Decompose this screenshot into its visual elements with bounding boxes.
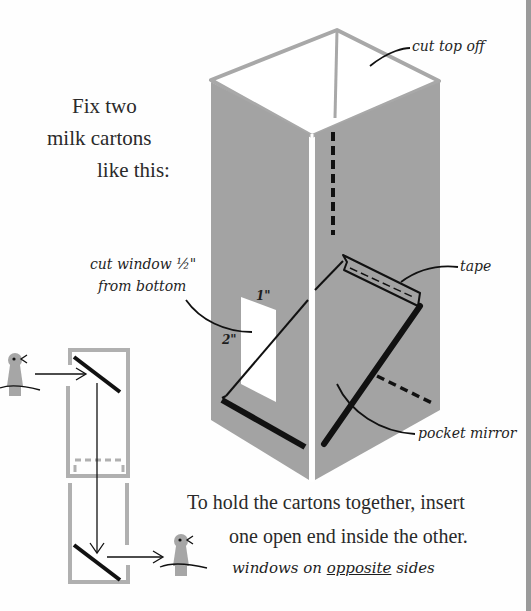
label-pocket-mirror: pocket mirror	[418, 425, 516, 441]
page-edge-stripe	[526, 0, 531, 611]
label-dim-height: 2"	[222, 333, 237, 347]
observer-figure-right	[160, 534, 207, 576]
label-cut-top-off: cut top off	[412, 38, 485, 54]
instruction-line-2: one open end inside the other.	[229, 525, 468, 548]
note-emphasis: opposite	[327, 559, 392, 577]
intro-line-2: milk cartons	[47, 126, 151, 151]
periscope-schematic	[35, 350, 163, 582]
note-suffix: sides	[391, 559, 434, 577]
observer-figure-left	[0, 353, 40, 396]
illustration-page: Fix two milk cartons like this: cut top …	[0, 0, 531, 611]
label-cut-window: cut window ½"	[90, 256, 196, 272]
label-dim-width: 1"	[256, 289, 271, 303]
intro-line-1: Fix two	[72, 94, 137, 119]
periscope-diagram	[0, 0, 531, 611]
intro-line-3: like this:	[97, 158, 170, 183]
label-from-bottom: from bottom	[98, 278, 186, 294]
instruction-note: windows on opposite sides	[232, 559, 435, 577]
milk-carton-illustration	[211, 30, 440, 482]
note-prefix: windows on	[232, 559, 327, 577]
label-tape: tape	[460, 258, 491, 274]
instruction-line-1: To hold the cartons together, insert	[187, 491, 465, 514]
